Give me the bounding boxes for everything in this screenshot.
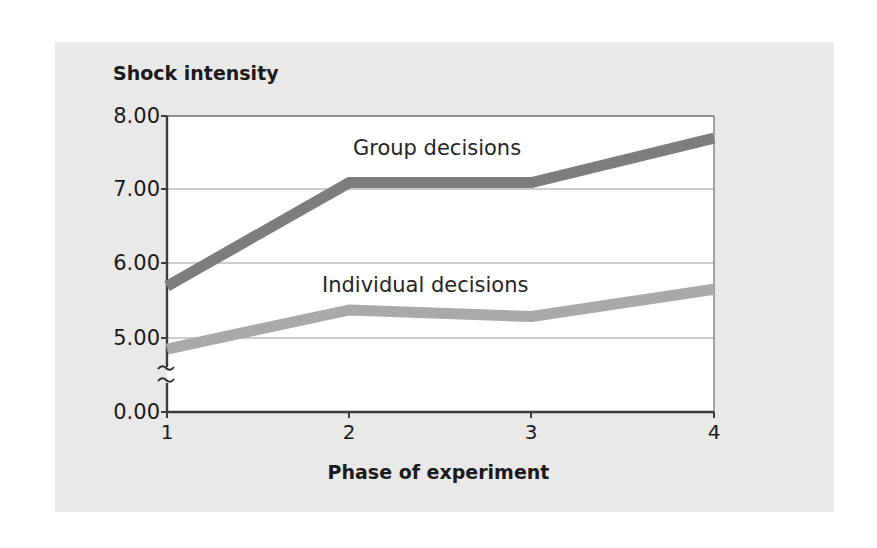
axis-break-icon — [158, 366, 174, 382]
series-line-group-decisions — [167, 138, 714, 286]
x-axis-title: Phase of experiment — [0, 461, 877, 483]
x-tick-label-3: 3 — [511, 420, 551, 444]
y-tick-label-8: 8.00 — [100, 104, 160, 128]
series-line-individual-decisions — [167, 289, 714, 349]
x-tick-label-1: 1 — [147, 420, 187, 444]
y-tick-label-5: 5.00 — [100, 326, 160, 350]
y-tick-label-6: 6.00 — [100, 251, 160, 275]
figure-container: Shock intensity 8.00 7.00 6.00 5.00 0.00… — [0, 0, 877, 548]
x-tick-label-4: 4 — [694, 420, 734, 444]
series-label-individual-decisions: Individual decisions — [322, 273, 528, 297]
y-tick-label-7: 7.00 — [100, 177, 160, 201]
x-tick-label-2: 2 — [329, 420, 369, 444]
series-label-group-decisions: Group decisions — [353, 136, 521, 160]
